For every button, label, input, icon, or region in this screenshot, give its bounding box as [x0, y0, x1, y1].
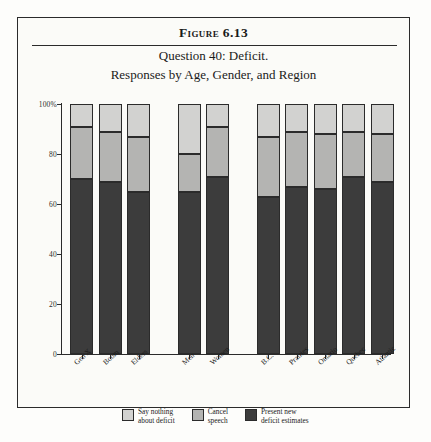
bar-atlantic[interactable]	[371, 104, 394, 354]
bar-segment	[206, 177, 229, 355]
bar-segment	[127, 192, 150, 355]
y-axis-tick-mark	[57, 104, 61, 105]
y-axis-line	[61, 103, 62, 355]
bar-segment	[178, 104, 201, 154]
y-axis-tick-label: 80	[49, 150, 57, 159]
legend-label: Present newdeficit estimates	[261, 408, 309, 425]
legend-item-present-new-deficit-estimates[interactable]: Present newdeficit estimates	[245, 408, 309, 425]
legend-label-line2: about deficit	[138, 417, 175, 426]
legend-label-line2: deficit estimates	[261, 417, 309, 426]
figure-subtitle-question: Question 40: Deficit.	[18, 48, 409, 64]
bar-segment	[99, 182, 122, 355]
bar-segment	[342, 104, 365, 132]
y-axis-tick-mark	[57, 204, 61, 205]
legend-label-line2: speech	[208, 417, 228, 426]
bar-segment	[206, 127, 229, 177]
y-axis-tick-label: 60	[49, 200, 57, 209]
bar-segment	[371, 182, 394, 355]
y-axis-tick-mark	[57, 254, 61, 255]
bar-segment	[70, 179, 93, 354]
bar-segment	[257, 197, 280, 355]
bar-men[interactable]	[178, 104, 201, 354]
bar-segment	[371, 104, 394, 134]
y-axis-tick-label: 100%	[39, 100, 57, 109]
bar-segment	[342, 132, 365, 177]
bar-segment	[257, 137, 280, 197]
bar-women[interactable]	[206, 104, 229, 354]
bar-segment	[257, 104, 280, 137]
bar-elders[interactable]	[127, 104, 150, 354]
figure-subtitle-breakdown: Responses by Age, Gender, and Region	[18, 67, 409, 83]
bar-ontario[interactable]	[314, 104, 337, 354]
bar-boom[interactable]	[99, 104, 122, 354]
y-axis-tick-label: 40	[49, 250, 57, 259]
bar-segment	[285, 187, 308, 355]
bar-gen-x[interactable]	[70, 104, 93, 354]
bar-segment	[178, 192, 201, 355]
figure-number: Figure 6.13	[18, 25, 409, 41]
bar-segment	[127, 137, 150, 192]
legend-item-cancel-speech[interactable]: Cancelspeech	[192, 408, 228, 425]
bar-quebec[interactable]	[342, 104, 365, 354]
legend-label: Say nothingabout deficit	[138, 408, 175, 425]
bar-segment	[99, 132, 122, 182]
chart-legend: Say nothingabout deficitCancelspeechPres…	[122, 408, 309, 425]
y-axis-tick-mark	[57, 304, 61, 305]
legend-swatch-say-nothing-about-deficit	[122, 409, 134, 421]
bar-segment	[70, 104, 93, 127]
figure-frame: Figure 6.13 Question 40: Deficit. Respon…	[17, 17, 410, 408]
bar-segment	[314, 104, 337, 134]
title-divider	[32, 45, 397, 46]
bar-b-c[interactable]	[257, 104, 280, 354]
bar-segment	[314, 134, 337, 189]
legend-swatch-present-new-deficit-estimates	[245, 409, 257, 421]
legend-swatch-cancel-speech	[192, 409, 204, 421]
y-axis-tick-label: 20	[49, 300, 57, 309]
bar-segment	[178, 154, 201, 192]
bar-segment	[70, 127, 93, 180]
bar-segment	[127, 104, 150, 137]
plot-area: 100%806040200 Gen XBoomEldersMenWomenB.C…	[61, 103, 391, 355]
bar-segment	[314, 189, 337, 354]
bar-segment	[285, 132, 308, 187]
y-axis-tick-mark	[57, 354, 61, 355]
bar-segment	[342, 177, 365, 355]
bar-segment	[99, 104, 122, 132]
bar-segment	[371, 134, 394, 182]
bar-segment	[285, 104, 308, 132]
bar-prairies[interactable]	[285, 104, 308, 354]
y-axis-tick-mark	[57, 154, 61, 155]
bar-segment	[206, 104, 229, 127]
legend-item-say-nothing-about-deficit[interactable]: Say nothingabout deficit	[122, 408, 175, 425]
legend-label: Cancelspeech	[208, 408, 228, 425]
